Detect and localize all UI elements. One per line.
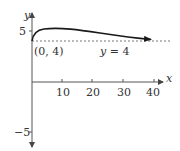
- y-tick-label-neg5: −5: [14, 126, 30, 139]
- asymptote-label-rest: = 4: [106, 45, 129, 58]
- point-label: (0, 4): [34, 45, 64, 58]
- x-tick-label-10: 10: [56, 86, 70, 99]
- asymptote-label: y = 4: [99, 45, 129, 58]
- x-tick-label-20: 20: [86, 86, 100, 99]
- x-tick-label-40: 40: [146, 86, 160, 99]
- y-tick-label-5: 5: [19, 25, 26, 38]
- y-axis-label: y: [23, 9, 31, 22]
- x-tick-label-30: 30: [117, 86, 131, 99]
- graph: y x 5 −5 10 20 30 40 (0, 4) y = 4: [0, 0, 180, 151]
- x-axis-label: x: [166, 72, 173, 85]
- curve: [32, 28, 151, 41]
